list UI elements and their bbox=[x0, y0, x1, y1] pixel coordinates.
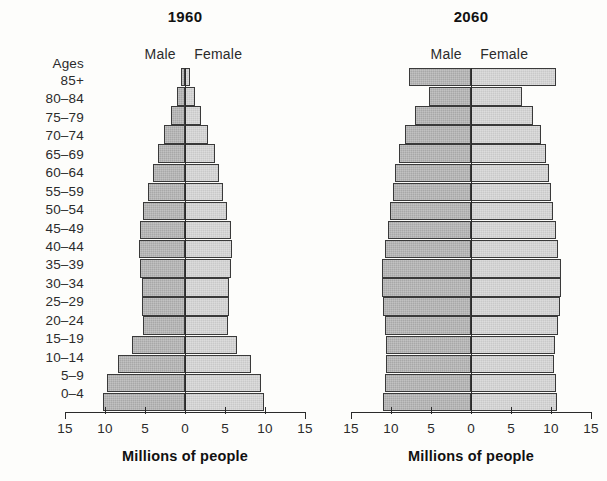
bar-female bbox=[185, 221, 231, 239]
bar-male bbox=[399, 144, 471, 162]
x-axis-tick bbox=[305, 412, 306, 419]
x-axis-tick bbox=[471, 407, 472, 414]
x-tick-label: 5 bbox=[427, 421, 435, 436]
bar-male bbox=[409, 68, 471, 86]
x-axis-tick bbox=[185, 407, 186, 414]
bar-male bbox=[142, 297, 185, 315]
bar-male bbox=[107, 374, 185, 392]
bar-female bbox=[471, 202, 553, 220]
bar-male bbox=[153, 164, 185, 182]
bar-male bbox=[158, 144, 185, 162]
x-tick-label: 10 bbox=[543, 421, 558, 436]
x-axis-tick bbox=[351, 412, 352, 419]
bar-female bbox=[471, 240, 558, 258]
bar-male bbox=[415, 106, 471, 124]
bar-female bbox=[185, 355, 251, 373]
bar-female bbox=[185, 278, 229, 296]
bar-male bbox=[385, 316, 471, 334]
bar-female bbox=[185, 297, 229, 315]
bar-male bbox=[386, 355, 471, 373]
x-tick-label: 15 bbox=[297, 421, 312, 436]
bar-male bbox=[382, 259, 471, 277]
bar-male bbox=[143, 316, 185, 334]
bar-male bbox=[386, 336, 471, 354]
bar-male bbox=[177, 87, 185, 105]
bar-female bbox=[471, 68, 556, 86]
bar-female bbox=[185, 144, 215, 162]
x-tick-labels-2060: 15105051015 bbox=[346, 421, 596, 439]
bar-female bbox=[185, 125, 208, 143]
bar-male bbox=[143, 202, 185, 220]
x-tick-label: 0 bbox=[467, 421, 475, 436]
bar-female bbox=[471, 87, 522, 105]
panel-2060: 2060 Male Female 15105051015 Millions of… bbox=[346, 0, 596, 481]
bar-female bbox=[471, 183, 551, 201]
bar-female bbox=[185, 164, 219, 182]
x-axis-tick bbox=[225, 407, 226, 414]
panel-title-1960: 1960 bbox=[60, 8, 310, 25]
bar-male bbox=[429, 87, 471, 105]
bar-female bbox=[471, 144, 546, 162]
legend-male-label: Male bbox=[431, 46, 470, 62]
bar-female bbox=[185, 259, 231, 277]
bar-female bbox=[471, 374, 556, 392]
bar-male bbox=[393, 183, 471, 201]
bar-female bbox=[185, 374, 261, 392]
x-axis-tick bbox=[551, 407, 552, 414]
x-tick-label: 10 bbox=[257, 421, 272, 436]
bar-female bbox=[185, 202, 227, 220]
legend-female-label: Female bbox=[472, 46, 528, 62]
legend-male-label: Male bbox=[145, 46, 184, 62]
center-axis-line bbox=[471, 68, 472, 412]
legend-2060: Male Female bbox=[346, 46, 596, 64]
bar-male bbox=[395, 164, 471, 182]
x-axis-title-1960: Millions of people bbox=[60, 448, 310, 464]
panel-title-2060: 2060 bbox=[346, 8, 596, 25]
bar-male bbox=[140, 221, 185, 239]
center-axis-line bbox=[185, 68, 186, 412]
x-tick-labels-1960: 15105051015 bbox=[60, 421, 310, 439]
bar-female bbox=[471, 278, 561, 296]
bar-female bbox=[471, 355, 554, 373]
x-tick-label: 15 bbox=[343, 421, 358, 436]
x-tick-label: 5 bbox=[507, 421, 515, 436]
x-axis-tick bbox=[391, 407, 392, 414]
bar-male bbox=[148, 183, 185, 201]
x-axis-tick bbox=[431, 407, 432, 414]
bar-female bbox=[471, 106, 533, 124]
bar-male bbox=[139, 240, 185, 258]
bar-female bbox=[471, 125, 541, 143]
x-axis-tick bbox=[591, 412, 592, 419]
x-axis-tick bbox=[105, 407, 106, 414]
bar-male bbox=[132, 336, 185, 354]
plot-area-2060 bbox=[351, 68, 591, 412]
bar-male bbox=[390, 202, 471, 220]
x-tick-label: 15 bbox=[57, 421, 72, 436]
x-axis-tick bbox=[265, 407, 266, 414]
population-pyramid-figure: Ages 85+80–8475–7970–7465–6960–6455–5950… bbox=[0, 0, 607, 481]
bar-female bbox=[471, 316, 558, 334]
bar-female bbox=[471, 393, 557, 411]
bar-female bbox=[471, 259, 561, 277]
bar-female bbox=[185, 316, 228, 334]
legend-female-label: Female bbox=[186, 46, 242, 62]
bar-male bbox=[142, 278, 185, 296]
x-axis-1960 bbox=[65, 412, 305, 420]
bar-male bbox=[383, 393, 471, 411]
plot-area-1960 bbox=[65, 68, 305, 412]
bar-female bbox=[471, 297, 560, 315]
x-tick-label: 5 bbox=[221, 421, 229, 436]
bar-male bbox=[388, 221, 471, 239]
x-tick-label: 0 bbox=[181, 421, 189, 436]
x-axis-title-2060: Millions of people bbox=[346, 448, 596, 464]
panel-1960: 1960 Male Female 15105051015 Millions of… bbox=[60, 0, 310, 481]
bar-male bbox=[405, 125, 471, 143]
bar-female bbox=[185, 336, 237, 354]
bar-male bbox=[118, 355, 185, 373]
bar-female bbox=[471, 164, 549, 182]
x-axis-2060 bbox=[351, 412, 591, 420]
bar-male bbox=[383, 297, 471, 315]
bar-male bbox=[385, 240, 471, 258]
x-axis-tick bbox=[145, 407, 146, 414]
legend-1960: Male Female bbox=[60, 46, 310, 64]
